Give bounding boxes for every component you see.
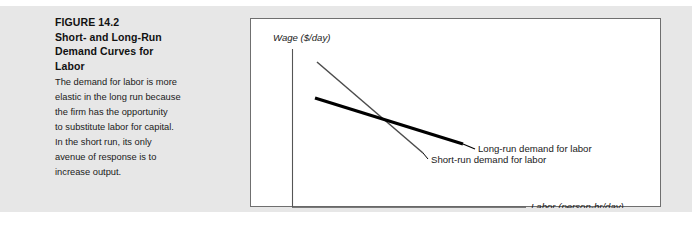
figure-title-line-3: Labor bbox=[55, 59, 227, 74]
figure-description-line-2: elastic in the long run because bbox=[55, 90, 227, 105]
figure-caption-block: FIGURE 14.2 Short- and Long-Run Demand C… bbox=[55, 15, 227, 180]
x-axis-label: Labor (person-hr/day) bbox=[531, 201, 624, 208]
figure-root: FIGURE 14.2 Short- and Long-Run Demand C… bbox=[0, 0, 692, 242]
chart-panel: Wage ($/day) Labor (person-hr/day) Long-… bbox=[250, 18, 661, 207]
figure-number: FIGURE 14.2 bbox=[55, 15, 227, 30]
long-run-demand-curve bbox=[315, 98, 463, 144]
y-axis-label: Wage ($/day) bbox=[273, 32, 330, 43]
figure-number-and-title: FIGURE 14.2 Short- and Long-Run Demand C… bbox=[55, 15, 227, 73]
figure-description-line-4: to substitute labor for capital. bbox=[55, 120, 227, 135]
short-run-label-leader bbox=[423, 153, 428, 159]
short-run-demand-curve bbox=[317, 62, 423, 153]
long-run-label-leader bbox=[463, 144, 475, 149]
figure-title-line-2: Demand Curves for bbox=[55, 44, 227, 59]
figure-title-line-1: Short- and Long-Run bbox=[55, 30, 227, 45]
short-run-curve-label: Short-run demand for labor bbox=[431, 154, 547, 165]
figure-description-line-7: increase output. bbox=[55, 165, 227, 180]
figure-description-line-1: The demand for labor is more bbox=[55, 75, 227, 90]
figure-description-line-3: the firm has the opportunity bbox=[55, 105, 227, 120]
long-run-curve-label: Long-run demand for labor bbox=[478, 143, 592, 154]
figure-description-line-5: In the short run, its only bbox=[55, 135, 227, 150]
figure-description: The demand for labor is more elastic in … bbox=[55, 75, 227, 179]
figure-description-line-6: avenue of response is to bbox=[55, 150, 227, 165]
demand-curves-chart: Wage ($/day) Labor (person-hr/day) Long-… bbox=[251, 19, 662, 208]
